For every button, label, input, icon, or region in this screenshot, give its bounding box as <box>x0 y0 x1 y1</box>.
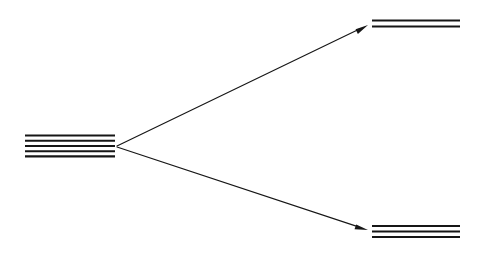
orbital-splitting-diagram <box>0 0 488 256</box>
diagram-background <box>0 0 488 256</box>
splitting-diagram-canvas <box>0 0 488 256</box>
